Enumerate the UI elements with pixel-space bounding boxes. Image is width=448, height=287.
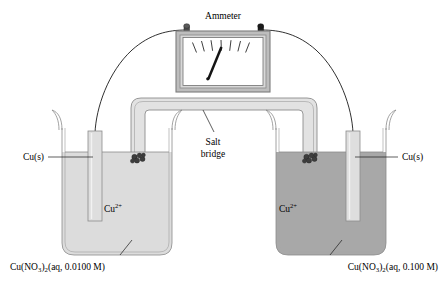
left-beaker <box>52 110 182 260</box>
diagram-canvas: Ammeter Salt bridge Cu(s) Cu(s) Cu2+ Cu2… <box>0 0 448 287</box>
leader-salt-bridge <box>203 110 214 132</box>
right-copper-electrode <box>346 131 360 221</box>
left-beaker-spout <box>52 110 62 130</box>
left-beaker-lip-right <box>172 110 182 130</box>
salt-bridge-label-line2: bridge <box>201 149 225 159</box>
right-solution-label: Cu(NO3)2(aq, 0.100 M) <box>348 262 438 273</box>
right-electrode-body <box>346 131 360 221</box>
ammeter-dial-face <box>183 38 263 86</box>
left-electrode-label: Cu(s) <box>23 152 44 163</box>
cell-diagram-figure: Ammeter Salt bridge Cu(s) Cu(s) Cu2+ Cu2… <box>0 0 448 287</box>
ammeter-label: Ammeter <box>205 11 242 21</box>
right-beaker <box>266 110 396 260</box>
right-beaker-lip-right <box>386 110 396 130</box>
ammeter-needle-pivot <box>206 77 209 80</box>
left-electrode-body <box>88 131 102 221</box>
terminal-knob-left <box>184 24 190 29</box>
left-copper-electrode <box>88 131 102 221</box>
left-solution-label: Cu(NO3)2(aq, 0.0100 M) <box>10 262 105 273</box>
salt-bridge-label-line1: Salt <box>206 137 221 147</box>
terminal-knob-right <box>258 24 264 29</box>
ammeter[interactable] <box>176 24 270 92</box>
right-electrode-label: Cu(s) <box>402 152 423 163</box>
right-beaker-spout <box>266 110 276 130</box>
